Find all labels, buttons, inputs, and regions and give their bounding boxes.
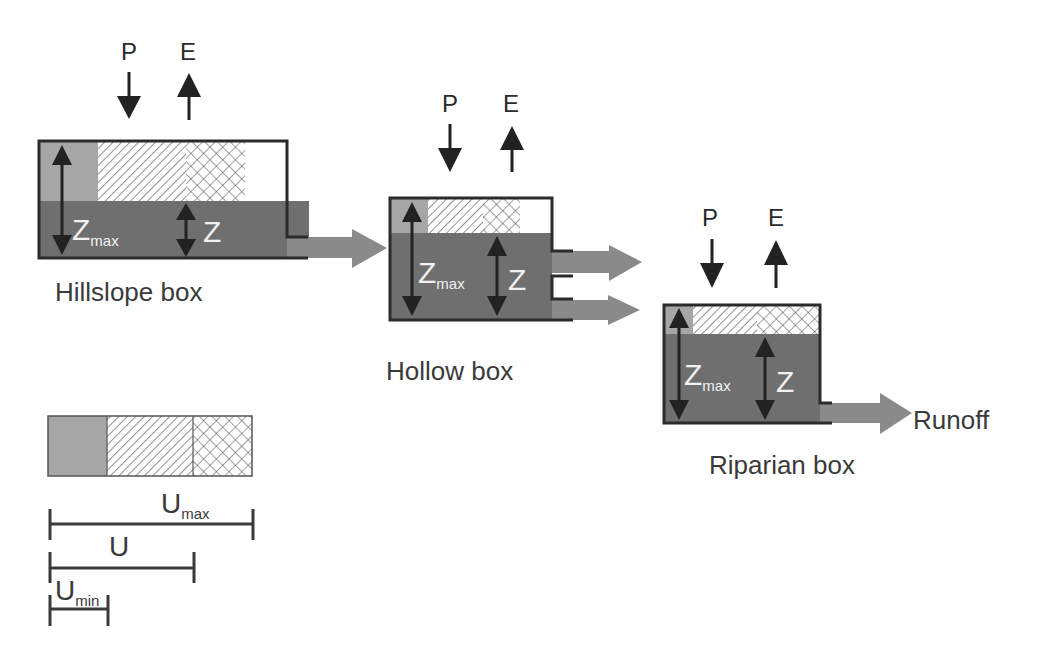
three-box-hydrology-diagram: P E Zmax: [0, 0, 1051, 655]
z-label: Z: [508, 263, 526, 296]
umin-label: Umin: [55, 575, 99, 609]
evaporation-arrow-icon: [177, 73, 201, 120]
legend-wilting-segment: [48, 416, 107, 476]
evaporation-label: E: [180, 38, 196, 65]
riparian-box: P E Zmax Z Runoff: [664, 204, 990, 480]
precipitation-arrow-icon: [438, 124, 462, 172]
plant-available-storage-fill: [428, 198, 483, 234]
plant-available-storage-fill: [98, 141, 186, 202]
hollow-box-label: Hollow box: [386, 356, 513, 386]
riparian-box-label: Riparian box: [709, 450, 855, 480]
precipitation-label: P: [121, 38, 137, 65]
legend-drainable-segment: [193, 416, 252, 476]
precipitation-label: P: [702, 204, 718, 231]
runoff-arrow-icon: [820, 393, 912, 434]
hillslope-box: P E Zmax: [39, 38, 387, 307]
umax-range-bar: [50, 509, 253, 540]
evaporation-label: E: [503, 90, 519, 117]
umax-label: Umax: [161, 488, 210, 522]
drainable-storage-fill: [757, 305, 820, 335]
z-label: Z: [776, 365, 794, 398]
hollow-box: P E Zmax: [386, 90, 642, 386]
hillslope-box-label: Hillslope box: [55, 277, 202, 307]
plant-available-storage-fill: [693, 305, 757, 335]
evaporation-label: E: [768, 204, 784, 231]
legend-plant-available-segment: [107, 416, 193, 476]
evaporation-arrow-icon: [500, 126, 524, 172]
precipitation-arrow-icon: [700, 239, 724, 288]
wilting-storage-fill: [39, 141, 98, 202]
drainable-storage-fill: [186, 141, 245, 202]
precipitation-arrow-icon: [117, 72, 141, 119]
precipitation-label: P: [442, 90, 458, 117]
evaporation-arrow-icon: [764, 240, 788, 288]
u-label: U: [109, 531, 129, 562]
drainable-storage-fill: [483, 198, 520, 234]
z-label: Z: [203, 215, 221, 248]
runoff-label: Runoff: [913, 405, 990, 435]
storage-legend: Umax U Umin: [48, 416, 253, 626]
